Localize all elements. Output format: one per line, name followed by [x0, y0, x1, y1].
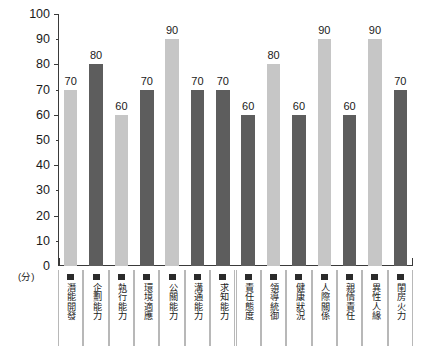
bar [241, 115, 255, 266]
category-label-cell: 閨房火力 [388, 270, 413, 346]
category-label-cell: 健康狀況 [286, 270, 311, 346]
category-label-cell: 求知能力 [210, 270, 235, 346]
bar-slot: 60 [292, 14, 306, 266]
bar-value-label: 60 [242, 101, 254, 112]
category-marker-icon [295, 274, 302, 280]
bar [292, 115, 306, 266]
y-tick-label: 30 [36, 184, 50, 196]
bar-value-label: 60 [115, 101, 127, 112]
bar [115, 115, 129, 266]
bar-value-label: 90 [166, 25, 178, 36]
y-tick-label: 90 [36, 33, 50, 45]
y-tick-label: 20 [36, 210, 50, 222]
bar-slot: 60 [241, 14, 255, 266]
category-label-cell: 公關能力 [159, 270, 184, 346]
category-label-text: 異性人緣 [370, 283, 380, 321]
category-label-cell: 人際關係 [312, 270, 337, 346]
category-label-text: 潛能開發 [66, 283, 76, 321]
bar-slot: 80 [89, 14, 103, 266]
category-marker-icon [118, 274, 125, 280]
category-label-text: 公關能力 [167, 283, 177, 321]
bar-slot: 90 [368, 14, 382, 266]
category-label-cell: 領導統御 [261, 270, 286, 346]
category-label-text: 責任態度 [243, 283, 253, 321]
category-marker-icon [397, 274, 404, 280]
category-label-cell: 企劃能力 [83, 270, 108, 346]
category-label-cell: 責任態度 [236, 270, 261, 346]
bar-value-label: 70 [394, 76, 406, 87]
category-label-text: 閨房火力 [396, 283, 406, 321]
y-tick-label: 50 [36, 134, 50, 146]
category-marker-icon [194, 274, 201, 280]
bar-value-label: 60 [343, 101, 355, 112]
category-label-text: 求知能力 [218, 283, 228, 321]
bar-value-label: 70 [141, 76, 153, 87]
bar-value-label: 60 [293, 101, 305, 112]
bar-slot: 70 [191, 14, 205, 266]
bar [165, 39, 179, 266]
category-label-cell: 執行能力 [109, 270, 134, 346]
bar-slot: 70 [216, 14, 230, 266]
bar-value-label: 70 [65, 76, 77, 87]
category-label-text: 企劃能力 [91, 283, 101, 321]
bar [318, 39, 332, 266]
bar-value-label: 90 [369, 25, 381, 36]
bars-layer: 7080607090707060806090609070 [58, 14, 413, 266]
category-marker-icon [219, 274, 226, 280]
category-label-text: 人際關係 [319, 283, 329, 321]
y-tick-label: 70 [36, 84, 50, 96]
bar-slot: 90 [165, 14, 179, 266]
category-marker-icon [143, 274, 150, 280]
category-marker-icon [346, 274, 353, 280]
bar-slot: 80 [267, 14, 281, 266]
bar [89, 64, 103, 266]
category-marker-icon [169, 274, 176, 280]
bar-slot: 70 [140, 14, 154, 266]
category-label-cell: 潛能開發 [58, 270, 83, 346]
y-tick-label: 0 [43, 260, 50, 272]
bar [343, 115, 357, 266]
category-label-cell: 溝通能力 [185, 270, 210, 346]
bar-slot: 60 [343, 14, 357, 266]
y-axis-unit-label: (分) [18, 272, 34, 282]
category-marker-icon [371, 274, 378, 280]
category-label-text: 健康狀況 [294, 283, 304, 321]
category-label-cell: 環境適應 [134, 270, 159, 346]
bar [267, 64, 281, 266]
bar-value-label: 90 [318, 25, 330, 36]
y-tick-label: 40 [36, 159, 50, 171]
bar-value-label: 70 [191, 76, 203, 87]
category-label-text: 溝通能力 [193, 283, 203, 321]
bar [64, 90, 78, 266]
category-marker-icon [67, 274, 74, 280]
bar-value-label: 80 [267, 50, 279, 61]
category-marker-icon [321, 274, 328, 280]
category-label-cell: 異性人緣 [362, 270, 387, 346]
category-label-text: 親情責任 [345, 283, 355, 321]
y-tick-label: 60 [36, 109, 50, 121]
bar [140, 90, 154, 266]
bar [394, 90, 408, 266]
y-tick-label: 100 [29, 8, 50, 20]
bar-slot: 60 [115, 14, 129, 266]
bar-chart: 1009080706050403020100 (分) 7080607090707… [0, 0, 432, 348]
category-marker-icon [270, 274, 277, 280]
category-label-text: 執行能力 [117, 283, 127, 321]
y-tick-label: 10 [36, 235, 50, 247]
category-label-cell: 親情責任 [337, 270, 362, 346]
bar-slot: 70 [64, 14, 78, 266]
y-axis: 1009080706050403020100 [12, 14, 58, 266]
bar-slot: 90 [318, 14, 332, 266]
bar [368, 39, 382, 266]
category-marker-icon [93, 274, 100, 280]
bar [191, 90, 205, 266]
bar-value-label: 70 [217, 76, 229, 87]
bar-slot: 70 [394, 14, 408, 266]
category-label-text: 環境適應 [142, 283, 152, 321]
category-label-text: 領導統御 [269, 283, 279, 321]
y-tick-label: 80 [36, 58, 50, 70]
category-labels: 潛能開發企劃能力執行能力環境適應公關能力溝通能力求知能力責任態度領導統御健康狀況… [58, 270, 413, 346]
category-marker-icon [245, 274, 252, 280]
bar [216, 90, 230, 266]
bar-value-label: 80 [90, 50, 102, 61]
